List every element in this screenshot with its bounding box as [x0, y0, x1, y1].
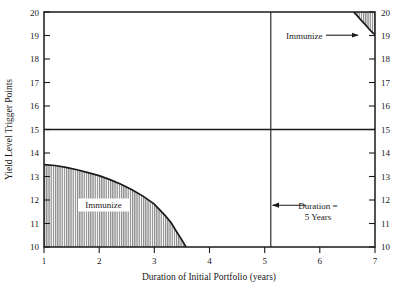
y-tick-label-right-0: 10 [381, 242, 391, 252]
x-tick-label-1: 2 [97, 256, 102, 266]
y-tick-label-right-8: 18 [381, 54, 391, 64]
y-tick-label-right-1: 11 [381, 219, 390, 229]
x-tick-label-0: 1 [42, 256, 47, 266]
y-tick-label-left-10: 20 [30, 8, 40, 18]
y-tick-label-right-9: 19 [381, 31, 391, 41]
chart-figure: 10 11 12 13 14 15 16 17 18 19 20 10 11 1… [0, 0, 413, 290]
x-tick-label-3: 4 [207, 256, 212, 266]
x-axis-title: Duration of Initial Portfolio (years) [142, 272, 276, 283]
y-tick-label-right-4: 14 [381, 148, 391, 158]
x-axis-tick-labels: 1 2 3 4 5 6 7 [42, 256, 378, 266]
y-tick-label-left-8: 18 [30, 54, 40, 64]
y-tick-label-right-2: 12 [381, 195, 390, 205]
y-tick-label-left-0: 10 [30, 242, 40, 252]
y-tick-label-left-5: 15 [30, 125, 40, 135]
y-axis-left-tick-labels: 10 11 12 13 14 15 16 17 18 19 20 [30, 8, 40, 253]
y-tick-label-left-9: 19 [30, 31, 40, 41]
x-tick-label-6: 7 [373, 256, 378, 266]
immunize-upper-label-text: Immunize [286, 31, 323, 41]
y-tick-label-left-7: 17 [30, 78, 40, 88]
y-tick-label-left-1: 11 [30, 219, 39, 229]
y-tick-label-right-10: 20 [381, 8, 391, 18]
y-tick-label-right-5: 15 [381, 125, 391, 135]
x-tick-label-2: 3 [152, 256, 157, 266]
immunize-lower-label: Immunize [78, 199, 129, 212]
immunize-lower-label-text: Immunize [85, 200, 122, 210]
chart-canvas: 10 11 12 13 14 15 16 17 18 19 20 10 11 1… [0, 0, 413, 290]
x-tick-label-4: 5 [262, 256, 267, 266]
duration-annotation-line2: 5 Years [305, 212, 332, 222]
x-axis-ticks [44, 247, 375, 253]
y-tick-label-left-4: 14 [30, 148, 40, 158]
y-axis-title: Yield Level Trigger Points [4, 79, 14, 180]
y-tick-label-left-3: 13 [30, 172, 40, 182]
y-tick-label-right-7: 17 [381, 78, 391, 88]
y-tick-label-right-3: 13 [381, 172, 391, 182]
y-tick-label-left-6: 16 [30, 101, 40, 111]
y-tick-label-right-6: 16 [381, 101, 391, 111]
y-axis-right-tick-labels: 10 11 12 13 14 15 16 17 18 19 20 [381, 8, 391, 253]
y-tick-label-left-2: 12 [30, 195, 39, 205]
x-tick-label-5: 6 [318, 256, 323, 266]
